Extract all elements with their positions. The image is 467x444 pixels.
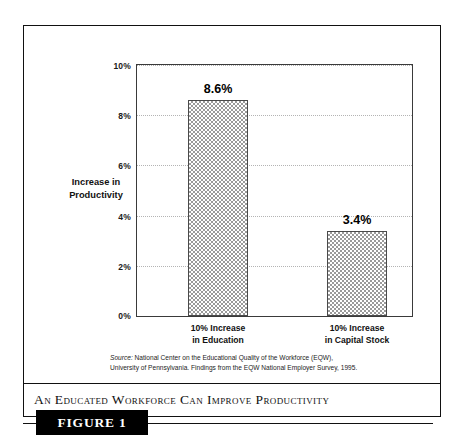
plot-area: 10% 8% 6% 4% 2% 0% 8.6% 10% Increase	[136, 64, 413, 317]
bar-value-capital-stock: 3.4%	[343, 213, 372, 227]
gridline-8: 8%	[137, 115, 412, 116]
bar-education[interactable]: 8.6% 10% Increase in Education	[188, 100, 248, 316]
ytick-label-8: 8%	[118, 111, 131, 121]
ytick-label-10: 10%	[113, 61, 131, 71]
source-note: Source: National Center on the Education…	[110, 353, 420, 373]
ytick-label-0: 0%	[118, 311, 131, 321]
y-axis-title-line-2: Productivity	[55, 189, 137, 202]
bar-capital-stock[interactable]: 3.4% 10% Increase in Capital Stock	[327, 231, 387, 316]
figure-caption: An Educated Workforce Can Improve Produc…	[34, 392, 329, 408]
gridline-10: 10%	[137, 65, 412, 66]
category-label-education: 10% Increase in Education	[191, 322, 245, 347]
ytick-label-4: 4%	[118, 212, 131, 222]
category-label-capital-stock: 10% Increase in Capital Stock	[325, 322, 389, 347]
source-note-line-2: University of Pennsylvania. Findings fro…	[110, 363, 420, 373]
chart-panel: Increase in Productivity 10% 8% 6% 4% 2%…	[24, 26, 440, 384]
ytick-label-6: 6%	[118, 161, 131, 171]
source-note-line-1: Source: National Center on the Education…	[110, 353, 420, 363]
figure-badge: FIGURE 1	[36, 410, 148, 435]
figure-frame: Increase in Productivity 10% 8% 6% 4% 2%…	[23, 25, 441, 417]
y-axis-title-line-1: Increase in	[55, 176, 137, 189]
category-label-education-line-2: in Education	[192, 335, 244, 345]
category-label-capital-stock-line-1: 10% Increase	[330, 323, 384, 333]
category-label-education-line-1: 10% Increase	[191, 323, 245, 333]
source-note-line-1-text: National Center on the Educational Quali…	[133, 354, 333, 361]
ytick-label-2: 2%	[118, 262, 131, 272]
bar-value-education: 8.6%	[204, 82, 233, 96]
gridline-6: 6%	[137, 165, 412, 166]
category-label-capital-stock-line-2: in Capital Stock	[325, 335, 389, 345]
y-axis-title: Increase in Productivity	[55, 176, 137, 203]
source-label: Source:	[110, 354, 133, 361]
figure-badge-label: FIGURE 1	[57, 415, 126, 431]
